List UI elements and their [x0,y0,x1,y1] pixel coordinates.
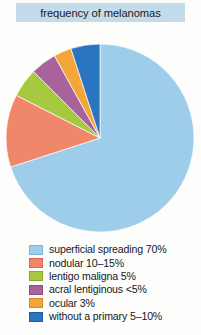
pie-chart-svg [0,32,201,240]
legend-swatch-superficial-spreading [29,245,43,255]
legend-label-acral-lentiginous: acral lentiginous <5% [49,284,147,295]
legend-swatch-nodular [29,258,43,268]
melanoma-frequency-figure: frequency of melanomas superficial sprea… [0,0,201,335]
legend-label-without-a-primary: without a primary 5–10% [49,311,162,322]
list-item[interactable]: superficial spreading 70% [29,243,201,256]
legend-swatch-without-a-primary [29,312,43,322]
list-item[interactable]: acral lentiginous <5% [29,283,201,296]
page-title: frequency of melanomas [40,7,160,19]
legend-swatch-lentigo-maligna [29,271,43,281]
legend-label-nodular: nodular 10–15% [49,258,124,269]
legend-label-ocular: ocular 3% [49,298,95,309]
list-item[interactable]: without a primary 5–10% [29,310,201,323]
pie-chart [0,32,201,240]
list-item[interactable]: lentigo maligna 5% [29,270,201,283]
legend-swatch-acral-lentiginous [29,285,43,295]
legend-swatch-ocular [29,298,43,308]
chart-legend: superficial spreading 70% nodular 10–15%… [29,243,201,323]
pie-slice-group [6,44,194,232]
legend-label-superficial-spreading: superficial spreading 70% [49,244,167,255]
list-item[interactable]: nodular 10–15% [29,256,201,269]
legend-label-lentigo-maligna: lentigo maligna 5% [49,271,136,282]
chart-title-bar: frequency of melanomas [16,3,185,22]
list-item[interactable]: ocular 3% [29,297,201,310]
